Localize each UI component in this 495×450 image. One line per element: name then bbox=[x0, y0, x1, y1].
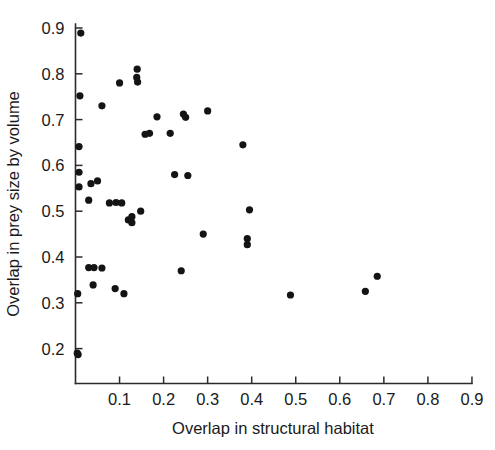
data-point bbox=[362, 288, 369, 295]
x-axis-ticks bbox=[120, 377, 472, 384]
y-tick-label: 0.8 bbox=[42, 65, 65, 83]
x-tick-label: 0.9 bbox=[460, 390, 483, 408]
data-point bbox=[244, 241, 251, 248]
y-tick-label: 0.9 bbox=[42, 19, 65, 37]
data-point bbox=[106, 199, 113, 206]
x-tick-label: 0.2 bbox=[152, 390, 175, 408]
data-point bbox=[90, 281, 97, 288]
data-points-layer bbox=[74, 29, 381, 358]
data-point bbox=[239, 141, 246, 148]
data-point bbox=[118, 199, 125, 206]
x-axis-tick-labels: 0.10.20.30.40.50.60.70.80.9 bbox=[108, 390, 483, 408]
data-point bbox=[76, 92, 83, 99]
y-tick-label: 0.2 bbox=[42, 340, 65, 358]
data-point bbox=[116, 79, 123, 86]
data-point bbox=[167, 130, 174, 137]
data-point bbox=[171, 171, 178, 178]
data-point bbox=[98, 264, 105, 271]
data-point bbox=[75, 351, 82, 358]
x-tick-label: 0.1 bbox=[108, 390, 131, 408]
y-tick-label: 0.3 bbox=[42, 294, 65, 312]
data-point bbox=[246, 206, 253, 213]
y-axis-title: Overlap in prey size by volume bbox=[4, 91, 22, 317]
data-point bbox=[137, 208, 144, 215]
x-axis-title: Overlap in structural habitat bbox=[172, 419, 374, 437]
x-tick-label: 0.3 bbox=[196, 390, 219, 408]
y-axis-tick-labels: 0.20.30.40.50.60.70.80.9 bbox=[42, 19, 65, 358]
plot-canvas: 0.10.20.30.40.50.60.70.80.9 0.20.30.40.5… bbox=[0, 0, 495, 450]
data-point bbox=[120, 290, 127, 297]
data-point bbox=[184, 172, 191, 179]
data-point bbox=[90, 264, 97, 271]
data-point bbox=[75, 183, 82, 190]
data-point bbox=[75, 169, 82, 176]
scatter-plot-figure: 0.10.20.30.40.50.60.70.80.9 0.20.30.40.5… bbox=[0, 0, 495, 450]
data-point bbox=[74, 290, 81, 297]
data-point bbox=[87, 180, 94, 187]
data-point bbox=[134, 78, 141, 85]
data-point bbox=[182, 114, 189, 121]
x-tick-label: 0.6 bbox=[328, 390, 351, 408]
data-point bbox=[77, 29, 84, 36]
x-tick-label: 0.4 bbox=[240, 390, 263, 408]
data-point bbox=[112, 285, 119, 292]
y-tick-label: 0.4 bbox=[42, 248, 65, 266]
y-tick-label: 0.5 bbox=[42, 202, 65, 220]
data-point bbox=[204, 107, 211, 114]
x-tick-label: 0.7 bbox=[372, 390, 395, 408]
data-point bbox=[134, 66, 141, 73]
data-point bbox=[98, 102, 105, 109]
data-point bbox=[200, 231, 207, 238]
data-point bbox=[374, 273, 381, 280]
data-point bbox=[75, 143, 82, 150]
x-tick-label: 0.5 bbox=[284, 390, 307, 408]
y-tick-label: 0.6 bbox=[42, 156, 65, 174]
data-point bbox=[85, 197, 92, 204]
data-point bbox=[287, 291, 294, 298]
data-point bbox=[178, 267, 185, 274]
y-tick-label: 0.7 bbox=[42, 111, 65, 129]
x-tick-label: 0.8 bbox=[416, 390, 439, 408]
data-point bbox=[94, 177, 101, 184]
data-point bbox=[128, 213, 135, 220]
data-point bbox=[153, 113, 160, 120]
data-point bbox=[146, 130, 153, 137]
